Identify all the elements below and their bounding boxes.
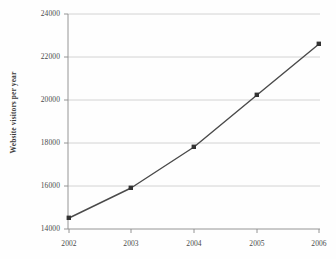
chart-plot-area bbox=[0, 0, 336, 259]
data-point-2002 bbox=[67, 216, 71, 220]
x-tick-label-2004: 2004 bbox=[174, 240, 214, 248]
y-tick-label-22000: 22000 bbox=[20, 53, 60, 61]
x-axis-ticks bbox=[69, 229, 319, 233]
data-series-line bbox=[69, 44, 319, 218]
y-tick-label-18000: 18000 bbox=[20, 139, 60, 147]
y-tick-label-14000: 14000 bbox=[20, 225, 60, 233]
x-tick-label-2003: 2003 bbox=[111, 240, 151, 248]
y-tick-label-16000: 16000 bbox=[20, 182, 60, 190]
gridlines bbox=[68, 14, 320, 186]
data-point-2006 bbox=[317, 42, 321, 46]
data-point-2005 bbox=[255, 93, 259, 97]
data-point-2003 bbox=[129, 186, 133, 190]
x-tick-label-2005: 2005 bbox=[237, 240, 277, 248]
data-point-2004 bbox=[192, 145, 196, 149]
x-tick-label-2006: 2006 bbox=[299, 240, 336, 248]
line-chart: 24000 22000 20000 18000 16000 14000 2002… bbox=[0, 0, 336, 259]
y-axis-title: Website visitors per year bbox=[9, 53, 18, 173]
data-point-markers bbox=[67, 42, 321, 220]
y-tick-label-24000: 24000 bbox=[20, 10, 60, 18]
x-tick-label-2002: 2002 bbox=[49, 240, 89, 248]
y-tick-label-20000: 20000 bbox=[20, 96, 60, 104]
y-axis-ticks bbox=[64, 14, 68, 229]
